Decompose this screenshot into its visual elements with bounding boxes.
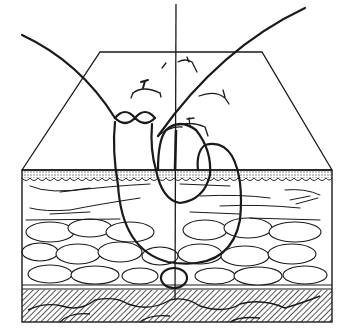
diagram-canvas	[0, 0, 350, 336]
muscle-layer	[22, 290, 332, 322]
figure-eight-knot	[115, 112, 155, 123]
tissue-block	[22, 170, 332, 322]
epidermis-layer	[22, 170, 332, 178]
suture-diagram	[0, 0, 350, 336]
suture-thread-right	[158, 8, 305, 136]
dermis-streaks	[26, 184, 320, 220]
inner-loop	[152, 124, 211, 203]
suture-thread-left	[22, 35, 115, 118]
